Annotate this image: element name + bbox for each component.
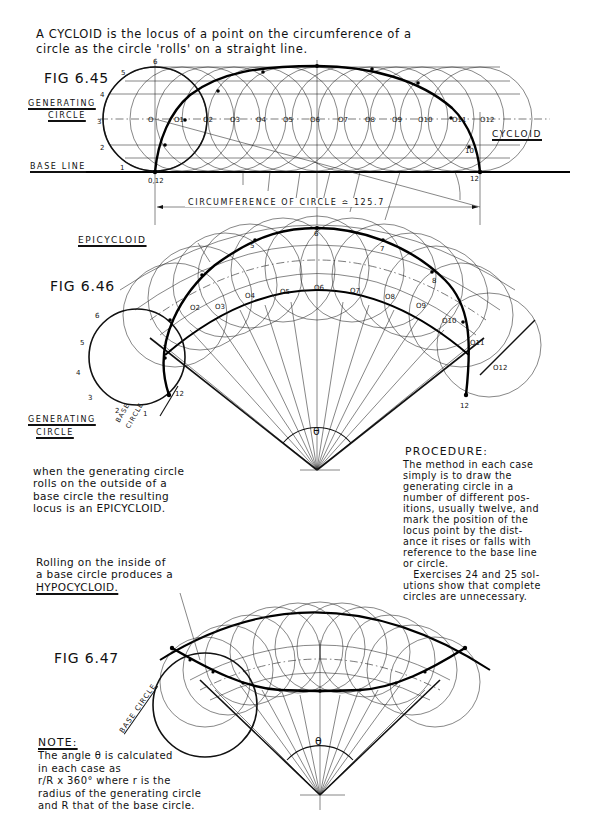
svg-text:3: 3 — [88, 394, 92, 402]
svg-text:O3: O3 — [215, 303, 225, 311]
svg-text:6: 6 — [153, 58, 158, 66]
note-title-text: NOTE: — [38, 736, 78, 749]
svg-text:12: 12 — [460, 402, 469, 410]
svg-text:O5: O5 — [280, 288, 290, 296]
fig-6-47-hypocycloid-drawing: θ — [153, 593, 490, 810]
svg-text:3: 3 — [97, 118, 101, 126]
fig-6-45-title: FIG 6.45 — [44, 70, 109, 86]
svg-text:O2: O2 — [203, 116, 213, 124]
svg-text:O5: O5 — [283, 116, 293, 124]
svg-text:O12: O12 — [480, 116, 494, 124]
epicycloid-description: when the generating circle rolls on the … — [33, 465, 184, 515]
generating-circle-label-line-1: GENERATING — [28, 99, 96, 108]
intro-line-1: A CYCLOID is the locus of a point on the… — [36, 28, 412, 41]
cycloid-label: CYCLOID — [492, 129, 542, 139]
svg-text:O1: O1 — [174, 116, 184, 124]
procedure-line: number of different pos- — [403, 492, 541, 503]
intro-line-2: circle as the circle 'rolls' on a straig… — [36, 43, 308, 56]
hypocycloid-description: Rolling on the inside of a base circle p… — [36, 556, 173, 593]
note-line: in each case as — [38, 763, 201, 776]
note-text: The angle θ is calculated in each case a… — [38, 750, 201, 813]
fig-6-47-title: FIG 6.47 — [54, 650, 119, 666]
base-line-label: BASE LINE — [30, 162, 86, 171]
epicycloid-description-line: locus is an EPICYCLOID. — [33, 502, 184, 514]
procedure-line: reference to the base line — [403, 547, 541, 558]
svg-text:12: 12 — [175, 390, 184, 398]
note-line: r/R x 360° where r is the — [38, 775, 201, 788]
procedure-title: PROCEDURE: — [405, 446, 488, 458]
svg-text:6: 6 — [314, 230, 319, 238]
hypocycloid-description-line: Rolling on the inside of — [36, 556, 173, 568]
procedure-line: Exercises 24 and 25 sol- — [403, 569, 541, 580]
note-line: radius of the generating circle — [38, 788, 201, 801]
svg-text:O2: O2 — [190, 304, 200, 312]
svg-text:O6: O6 — [310, 116, 321, 124]
svg-text:8: 8 — [432, 277, 436, 285]
svg-text:2: 2 — [100, 144, 104, 152]
svg-text:4: 4 — [76, 369, 81, 377]
svg-text:O12: O12 — [493, 364, 507, 372]
epicycloid-description-line: base circle the resulting — [33, 490, 184, 502]
fig-6-46-title: FIG 6.46 — [50, 278, 115, 294]
procedure-line: generating circle in a — [403, 481, 541, 492]
svg-text:O7: O7 — [350, 287, 360, 295]
svg-text:O8: O8 — [385, 293, 395, 301]
epicycloid-description-line: rolls on the outside of a — [33, 477, 184, 489]
procedure-line: or circle. — [403, 558, 541, 569]
fig-6-46-epicycloid-drawing: θ O12 O2 O3 O4 — [76, 216, 541, 470]
procedure-line: locus point by the dist- — [403, 525, 541, 536]
svg-text:O: O — [148, 116, 154, 124]
note-line: The angle θ is calculated — [38, 750, 201, 763]
svg-text:θ: θ — [315, 735, 322, 748]
procedure-line: mark the position of the — [403, 514, 541, 525]
procedure-line: circles are unnecessary. — [403, 591, 541, 602]
svg-text:7: 7 — [380, 245, 384, 253]
circumference-dimension-label: CIRCUMFERENCE OF CIRCLE ≏ 125.7 — [185, 198, 388, 207]
svg-text:6: 6 — [95, 312, 100, 320]
svg-text:12: 12 — [470, 175, 479, 183]
svg-text:1: 1 — [143, 410, 147, 418]
svg-text:O10: O10 — [442, 317, 456, 325]
svg-text:O8: O8 — [365, 116, 375, 124]
epicycloid-label: EPICYCLOID — [78, 235, 147, 245]
svg-text:0,12: 0,12 — [148, 177, 164, 185]
hypocycloid-label: HYPOCYCLOID. — [36, 581, 173, 593]
note-line: and R that of the base circle. — [38, 800, 201, 813]
svg-text:θ: θ — [313, 425, 320, 438]
procedure-text: The method in each case simply is to dra… — [403, 459, 541, 602]
procedure-line: itions, usually twelve, and — [403, 503, 541, 514]
generating-circle-label-line-1: GENERATING — [28, 415, 96, 424]
svg-text:10: 10 — [465, 147, 474, 155]
procedure-line: utions show that complete — [403, 580, 541, 591]
note-title: NOTE: — [38, 737, 78, 749]
svg-text:O4: O4 — [245, 292, 256, 300]
epicycloid-description-line: when the generating circle — [33, 465, 184, 477]
hypocycloid-description-line: a base circle produces a — [36, 568, 173, 580]
svg-text:4: 4 — [100, 91, 105, 99]
procedure-line: simply is to draw the — [403, 470, 541, 481]
svg-text:5: 5 — [250, 242, 254, 250]
svg-text:O11: O11 — [452, 116, 466, 124]
procedure-line: The method in each case — [403, 459, 541, 470]
svg-text:1: 1 — [120, 164, 124, 172]
svg-text:O6: O6 — [314, 284, 325, 292]
generating-circle-label-line-2: CIRCLE — [36, 428, 74, 437]
svg-text:O7: O7 — [338, 116, 348, 124]
svg-text:5: 5 — [80, 339, 84, 347]
generating-circle-label-line-2: CIRCLE — [48, 111, 86, 120]
svg-text:O11: O11 — [470, 339, 484, 347]
svg-text:O9: O9 — [392, 116, 402, 124]
svg-text:O3: O3 — [230, 116, 240, 124]
svg-text:O10: O10 — [418, 116, 432, 124]
svg-text:O4: O4 — [256, 116, 267, 124]
svg-text:5: 5 — [121, 69, 125, 77]
procedure-line: ance it rises or falls with — [403, 536, 541, 547]
svg-text:O9: O9 — [416, 302, 426, 310]
